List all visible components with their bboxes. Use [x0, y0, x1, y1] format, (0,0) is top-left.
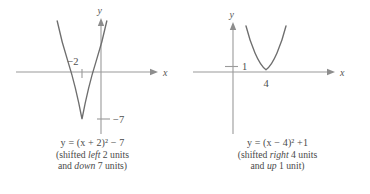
y-axis-arrow-icon [98, 18, 104, 26]
shift-prefix: and [250, 160, 266, 171]
plot-area-right: x y 1 4 [185, 0, 370, 136]
plot-area-left: x y −2 −7 [0, 0, 185, 136]
parabola-curve [246, 26, 286, 70]
y-axis-arrow-icon [230, 22, 236, 30]
caption-shift-line-2: and down 7 units) [5, 160, 180, 172]
caption-shift-line-2: and up 1 unit) [190, 160, 365, 172]
caption-equation: y = (x − 4)² +1 [190, 137, 365, 149]
x-axis-label: x [339, 67, 345, 78]
y-axis-label: y [229, 9, 235, 20]
caption-left: y = (x + 2)² − 7 (shifted left 2 units a… [5, 137, 180, 172]
caption-shift-line-1: (shifted right 4 units [190, 149, 365, 161]
tick-label-vertex-x: −2 [67, 56, 78, 67]
x-axis-arrow-icon [327, 69, 335, 75]
tick-label-vertex-y: 1 [242, 61, 247, 72]
shift-direction-emphasis: down [74, 160, 95, 171]
shift-direction-emphasis: left [88, 149, 100, 160]
caption-right: y = (x − 4)² +1 (shifted right 4 units a… [190, 137, 365, 172]
y-axis-label: y [97, 5, 103, 16]
shift-prefix: and [58, 160, 74, 171]
tick-label-vertex-y: −7 [113, 114, 124, 125]
tick-label-vertex-x: 4 [263, 78, 269, 89]
x-axis-arrow-icon [150, 69, 158, 75]
shift-suffix: 4 units [289, 149, 318, 160]
shift-direction-emphasis: up [267, 160, 277, 171]
figure-panel-right: x y 1 4 y = (x − 4)² +1 (shifted right 4… [185, 0, 370, 194]
figure-panel-left: x y −2 −7 y = (x + 2)² − 7 (shifted left… [0, 0, 185, 194]
caption-equation: y = (x + 2)² − 7 [5, 137, 180, 149]
shift-suffix: 2 units [100, 149, 129, 160]
parabola-figure-pair: x y −2 −7 y = (x + 2)² − 7 (shifted left… [0, 0, 370, 194]
shift-suffix: 7 units) [95, 160, 127, 171]
x-axis-label: x [162, 67, 168, 78]
shift-prefix: (shifted [238, 149, 270, 160]
shift-prefix: (shifted [56, 149, 88, 160]
shift-suffix: 1 unit) [277, 160, 305, 171]
shift-direction-emphasis: right [270, 149, 289, 160]
caption-shift-line-1: (shifted left 2 units [5, 149, 180, 161]
